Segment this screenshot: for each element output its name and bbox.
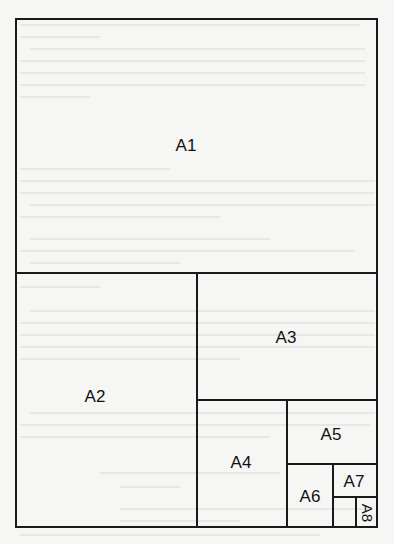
region-label-a8: A8 [360, 504, 375, 522]
region-label-a4: A4 [231, 454, 252, 471]
region-label-a5: A5 [321, 426, 342, 443]
region-label-a7: A7 [344, 473, 365, 490]
frame-top-edge [15, 18, 378, 20]
region-label-a1: A1 [176, 137, 197, 154]
region-label-a3: A3 [276, 329, 297, 346]
region-label-a2: A2 [85, 388, 106, 405]
region-label-a6: A6 [300, 488, 321, 505]
divider-a8-left [355, 496, 357, 528]
